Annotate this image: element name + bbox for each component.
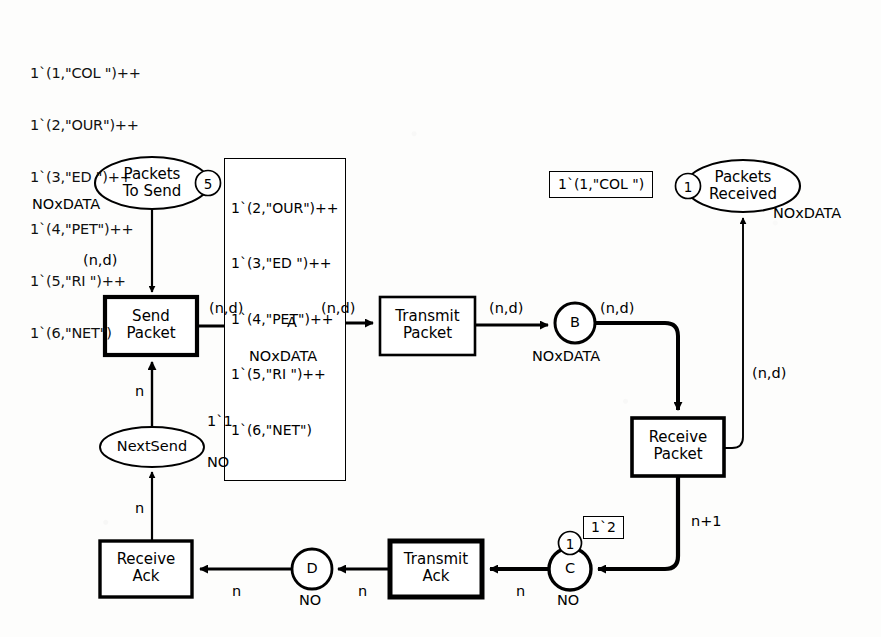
place-packets-to-send-token-count: 5 (197, 176, 219, 192)
place-packets-received-type: NOxDATA (773, 205, 841, 221)
transition-transmit-packet[interactable] (380, 297, 475, 355)
petri-net-diagram: 1`(1,"COL ")++ 1`(2,"OUR")++ 1`(3,"ED ")… (0, 0, 881, 637)
marking-line: 1`(5,"RI ")++ (231, 365, 339, 383)
initial-marking-line: 1`(4,"PET")++ (30, 221, 141, 241)
place-next-send[interactable] (100, 427, 204, 467)
arc-receive-packet-to-packets-received (724, 218, 743, 448)
initial-marking-line: 1`(1,"COL ")++ (30, 65, 141, 85)
arc-label-transmit-ack-to-d: n (358, 583, 367, 599)
arc-label-a-to-transmit: (n,d) (321, 300, 355, 316)
place-next-send-type: NO (207, 454, 229, 470)
initial-marking-line: 1`(2,"OUR")++ (30, 117, 141, 137)
place-packets-received-token-count: 1 (677, 179, 699, 195)
arc-label-pts-to-send: (n,d) (83, 252, 117, 268)
arc-label-receive-ack-to-nextsend: n (135, 500, 144, 516)
place-c-type: NO (557, 592, 579, 608)
arc-label-d-to-receive-ack: n (232, 583, 241, 599)
initial-marking-line: 1`(5,"RI ")++ (30, 273, 141, 293)
arc-label-send-to-a: (n,d) (209, 300, 243, 316)
arc-label-b-to-receive: (n,d) (600, 300, 634, 316)
transition-receive-ack[interactable] (100, 541, 192, 597)
marking-line: 1`(2,"OUR")++ (231, 199, 339, 217)
arc-label-c-to-transmit-ack: n (516, 583, 525, 599)
place-next-send-marking: 1`1 (207, 413, 233, 429)
place-b-type: NOxDATA (532, 348, 600, 364)
place-c-marking-box: 1`2 (583, 516, 624, 539)
initial-marking-line: 1`(6,"NET") (30, 325, 141, 345)
packets-to-send-marking-box: 1`(2,"OUR")++ 1`(3,"ED ")++ 1`(4,"PET")+… (224, 158, 346, 481)
place-d-type: NO (299, 592, 321, 608)
arc-label-transmit-to-b: (n,d) (489, 300, 523, 316)
marking-line: 1`(3,"ED ")++ (231, 254, 339, 272)
initial-marking-line: 1`(3,"ED ")++ (30, 169, 141, 189)
arc-label-receive-to-c: n+1 (691, 513, 722, 529)
transition-receive-packet[interactable] (632, 418, 724, 476)
packets-received-marking-box: 1`(1,"COL ") (549, 171, 653, 198)
place-a-type: NOxDATA (249, 348, 317, 364)
marking-line: 1`(6,"NET") (231, 421, 339, 439)
transition-transmit-ack[interactable] (390, 541, 482, 597)
arc-label-receive-to-received: (n,d) (752, 365, 786, 381)
place-b[interactable] (555, 303, 595, 343)
arc-label-nextsend-to-send: n (135, 383, 144, 399)
place-d[interactable] (292, 549, 332, 589)
place-packets-to-send-type: NOxDATA (32, 196, 100, 212)
place-c-token-count: 1 (559, 536, 581, 552)
arc-b-to-receive-packet (595, 323, 678, 410)
